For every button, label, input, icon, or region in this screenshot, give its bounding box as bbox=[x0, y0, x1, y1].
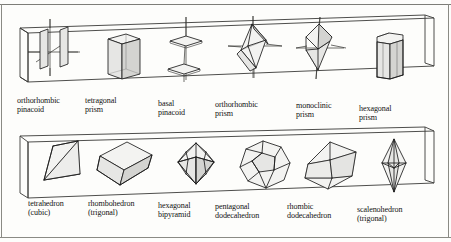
label-tetrahedron: tetrahedron (cubic) bbox=[28, 199, 86, 218]
label-orthorhombic-prism: orthorhombic prism bbox=[215, 100, 277, 119]
label-monoclinic-prism: monoclinic prism bbox=[296, 101, 348, 120]
label-hexagonal-prism: hexagonal prism bbox=[359, 104, 411, 123]
label-pentagonal-dodecahedron: pentagonal dodecahedron bbox=[215, 202, 281, 221]
label-tetragonal-prism: tetragonal prism bbox=[85, 96, 137, 115]
shape-tetragonal-prism bbox=[108, 34, 140, 79]
label-basal-pinacoid: basal pinacoid bbox=[158, 99, 208, 118]
label-scalenohedron: scalenohedron (trigonal) bbox=[357, 205, 427, 224]
label-orthorhombic-pinacoid: orthorhombic pinacoid bbox=[17, 96, 79, 115]
label-hexagonal-bipyramid: hexagonal bipyramid bbox=[158, 201, 208, 220]
upper-panel-box bbox=[20, 15, 434, 93]
label-rhombic-dodecahedron: rhombic dodecahedron bbox=[287, 202, 353, 221]
shape-hexagonal-prism bbox=[377, 33, 403, 79]
shape-rhombohedron bbox=[97, 142, 152, 185]
shape-rhombic-dodecahedron bbox=[305, 142, 356, 189]
lower-panel-box bbox=[20, 127, 434, 198]
shape-tetrahedron bbox=[44, 141, 80, 180]
shape-hexagonal-bipyramid bbox=[178, 143, 214, 184]
label-rhombohedron: rhombohedron (trigonal) bbox=[88, 199, 154, 218]
crystal-forms-figure: .ln { fill:none; stroke:#1c1c1c; stroke-… bbox=[0, 0, 451, 242]
shape-pentagonal-dodecahedron bbox=[240, 141, 290, 188]
